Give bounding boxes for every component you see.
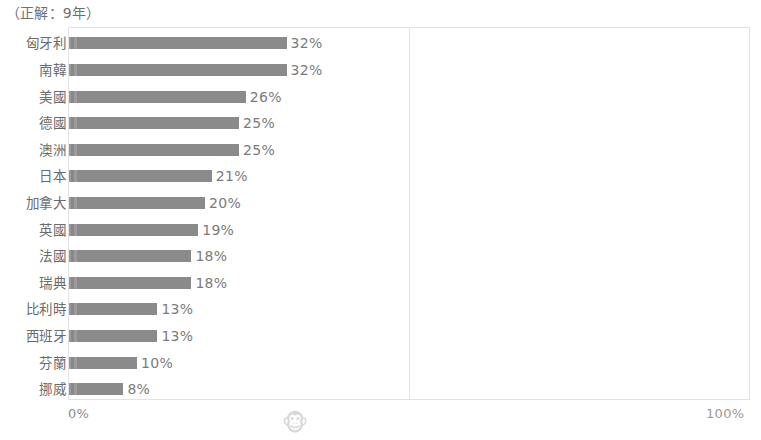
category-label: 西班牙 (0, 328, 66, 344)
bar-value-label: 25% (243, 115, 275, 131)
bar-value-label: 25% (243, 142, 275, 158)
category-label: 法國 (0, 248, 66, 264)
category-label: 比利時 (0, 301, 66, 317)
bar-value-label: 21% (216, 168, 248, 184)
bar-row: 比利時13% (0, 296, 761, 323)
bar-row: 西班牙13% (0, 323, 761, 350)
bar-row: 芬蘭10% (0, 349, 761, 376)
category-label: 加拿大 (0, 195, 66, 211)
bar (69, 250, 191, 262)
category-label: 南韓 (0, 62, 66, 78)
bar-value-label: 10% (141, 355, 173, 371)
bar-row: 加拿大20% (0, 190, 761, 217)
bar-value-label: 8% (127, 381, 150, 397)
bar-row: 挪威8% (0, 376, 761, 403)
category-label: 美國 (0, 89, 66, 105)
bar-row: 德國25% (0, 110, 761, 137)
bar-row: 法國18% (0, 243, 761, 270)
bar-value-label: 32% (291, 35, 323, 51)
category-label: 瑞典 (0, 275, 66, 291)
category-label: 德國 (0, 115, 66, 131)
bar-value-label: 13% (161, 328, 193, 344)
bar-value-label: 32% (291, 62, 323, 78)
axis-label-min: 0% (68, 406, 89, 421)
bar-row: 美國26% (0, 83, 761, 110)
bar-value-label: 19% (202, 222, 234, 238)
bar (69, 144, 239, 156)
category-label: 日本 (0, 168, 66, 184)
bar (69, 330, 157, 342)
bar (69, 197, 205, 209)
bar-value-label: 18% (195, 275, 227, 291)
bar (69, 303, 157, 315)
bar-row: 匈牙利32% (0, 30, 761, 57)
category-label: 挪威 (0, 381, 66, 397)
monkey-face-icon: 🐵 (278, 409, 312, 437)
bar (69, 383, 123, 395)
bar (69, 91, 246, 103)
bar-row: 英國19% (0, 216, 761, 243)
bar-value-label: 20% (209, 195, 241, 211)
bar-row: 澳洲25% (0, 136, 761, 163)
bar-row: 南韓32% (0, 57, 761, 84)
axis-label-max: 100% (706, 406, 744, 421)
page-title: （正解：9年） (6, 4, 100, 22)
bar (69, 117, 239, 129)
bar-row: 瑞典18% (0, 270, 761, 297)
bar (69, 277, 191, 289)
bar (69, 170, 212, 182)
horizontal-bar-chart: （正解：9年） 匈牙利32%南韓32%美國26%德國25%澳洲25%日本21%加… (0, 0, 761, 440)
bar-value-label: 26% (250, 89, 282, 105)
bar (69, 37, 287, 49)
category-label: 匈牙利 (0, 35, 66, 51)
category-label: 芬蘭 (0, 355, 66, 371)
bar (69, 357, 137, 369)
bar-row: 日本21% (0, 163, 761, 190)
bar (69, 224, 198, 236)
bar (69, 64, 287, 76)
category-label: 澳洲 (0, 142, 66, 158)
bar-value-label: 13% (161, 301, 193, 317)
category-label: 英國 (0, 222, 66, 238)
bar-value-label: 18% (195, 248, 227, 264)
